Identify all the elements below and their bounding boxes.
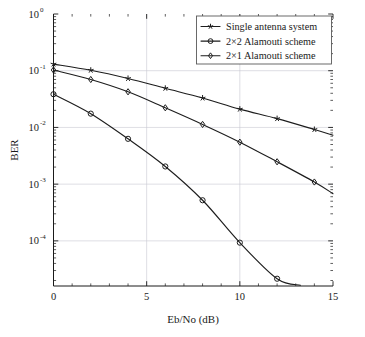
legend-label: 2×1 Alamouti scheme — [226, 50, 316, 61]
svg-text:10: 10 — [29, 122, 40, 133]
x-tick-label: 15 — [328, 291, 339, 302]
svg-text:-4: -4 — [40, 233, 46, 241]
svg-text:10: 10 — [29, 65, 40, 76]
ber-performance-chart: 05101510010-110-210-310-4 Single antenna… — [0, 0, 365, 337]
svg-text:-2: -2 — [40, 119, 46, 127]
y-axis-title: BER — [8, 139, 20, 161]
svg-text:0: 0 — [40, 6, 44, 14]
svg-text:10: 10 — [29, 179, 40, 190]
legend-label: 2×2 Alamouti scheme — [226, 36, 316, 47]
legend-label: Single antenna system — [226, 21, 317, 32]
svg-text:-1: -1 — [40, 63, 46, 71]
chart-legend: Single antenna system2×2 Alamouti scheme… — [197, 16, 332, 64]
x-axis-title: Eb/No (dB) — [167, 313, 219, 326]
x-tick-label: 10 — [235, 291, 246, 302]
x-tick-label: 5 — [144, 291, 149, 302]
svg-text:-3: -3 — [40, 176, 46, 184]
svg-text:10: 10 — [29, 9, 40, 20]
x-tick-label: 0 — [51, 291, 56, 302]
chart-canvas: 05101510010-110-210-310-4 Single antenna… — [0, 0, 365, 337]
svg-text:10: 10 — [29, 235, 40, 246]
